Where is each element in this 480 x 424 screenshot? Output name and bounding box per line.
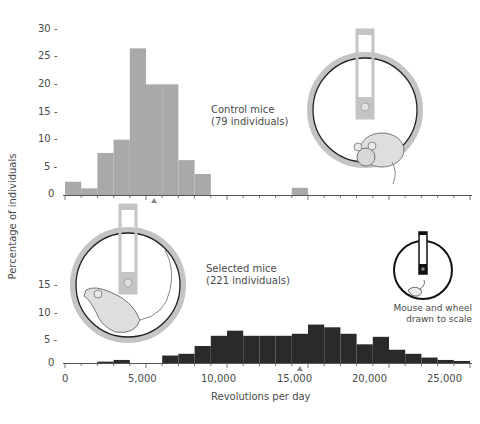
histogram-bar [130,48,146,195]
histogram-bar [389,350,405,363]
top-ytick-10: 10 - [38,133,58,144]
small-mouse-wheel-icon [394,232,452,299]
histogram-bar [438,360,454,363]
histogram-bar [114,140,130,195]
xtick-5000: 5,000 [128,373,157,384]
top-ytick-25: 25 - [38,50,58,61]
histogram-bar [97,362,113,363]
histogram-bar [357,344,373,363]
histogram-chart [0,0,480,424]
histogram-bar [292,188,308,195]
histogram-bar [178,160,194,195]
mouse-in-wheel-icon [310,30,420,184]
xtick-15000: 15,000 [277,373,312,384]
histogram-bar [276,336,292,363]
bottom-ytick-0: 0 [48,357,54,368]
histogram-bar [97,153,113,195]
running-mouse-in-wheel-icon [73,205,183,340]
histogram-bar [65,182,81,195]
histogram-bar [340,334,356,363]
top-ytick-5: 5 - [44,161,57,172]
histogram-bar [421,358,437,363]
histogram-bar [211,336,227,363]
histogram-bar [162,356,178,363]
histogram-bar [405,354,421,363]
histogram-bar [178,354,194,363]
histogram-bar [227,331,243,363]
top-ytick-30: 30 - [38,23,58,34]
top-ytick-0: 0 [48,188,54,199]
histogram-bar [195,346,211,363]
histogram-bar [81,188,97,195]
histogram-bar [324,327,340,363]
scale-note-line-1: Mouse and wheel [380,303,472,314]
xtick-20000: 20,000 [352,373,387,384]
scale-note: Mouse and wheel drawn to scale [380,303,472,325]
bottom-ytick-5: 5 - [44,334,57,345]
histogram-bar [373,337,389,363]
selected-mice-title: Selected mice [206,263,277,275]
bottom-ytick-15: 15 - [38,279,58,290]
control-mice-title: Control mice [211,104,275,116]
histogram-bar [146,84,162,195]
control-mice-count: (79 individuals) [211,116,288,128]
histogram-bar [162,84,178,195]
xtick-10000: 10,000 [201,373,236,384]
xtick-25000: 25,000 [427,373,462,384]
selected-mice-count: (221 individuals) [206,275,290,287]
histogram-bar [114,360,130,363]
y-axis-label: Percentage of individuals [7,160,18,280]
histogram-bar [454,361,470,363]
scale-note-line-2: drawn to scale [380,314,472,325]
histogram-bar [195,174,211,195]
top-ytick-20: 20 - [38,78,58,89]
histogram-bar [259,336,275,363]
histogram-bar [308,325,324,363]
histogram-bar [243,336,259,363]
x-axis-label: Revolutions per day [211,391,311,402]
xtick-0: 0 [62,373,68,384]
bottom-ytick-10: 10 - [38,307,58,318]
top-ytick-15: 15 - [38,106,58,117]
histogram-bar [292,334,308,363]
